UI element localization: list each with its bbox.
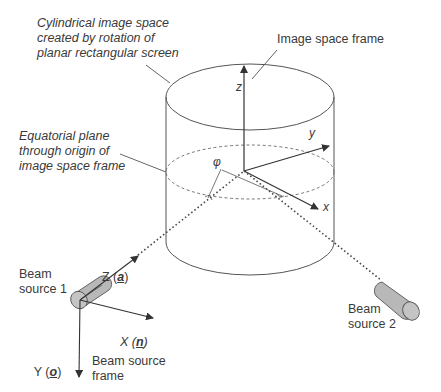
label-image-space-frame: Image space frame xyxy=(277,32,384,47)
label-beam-source-frame: Beam source frame xyxy=(92,354,166,384)
label-axis-x: x xyxy=(323,200,329,214)
leader-lines xyxy=(120,50,277,172)
label-angle-phi: φ xyxy=(213,155,221,169)
axis-Z-letter: Z xyxy=(102,270,110,284)
axis-X-vector: n xyxy=(136,335,144,349)
label-beam-axis-x: X (n) xyxy=(113,320,148,350)
label-beam-source-1: Beam source 1 xyxy=(19,267,67,297)
axis-Y-vector: o xyxy=(50,365,58,379)
label-beam-axis-y: Y (o) xyxy=(27,350,61,380)
axis-Z-vector: a xyxy=(117,270,124,284)
image-space-axes xyxy=(244,66,329,209)
axis-Y-letter: Y xyxy=(34,365,42,379)
label-axis-z: z xyxy=(236,80,242,94)
label-cylindrical-space: Cylindrical image space created by rotat… xyxy=(37,16,179,61)
label-beam-source-2: Beam source 2 xyxy=(348,302,396,332)
beam-paths xyxy=(138,171,381,280)
label-equatorial-plane: Equatorial plane through origin of image… xyxy=(19,129,125,174)
label-beam-axis-z: Z (a) xyxy=(95,255,128,285)
angle-phi-marker xyxy=(205,169,284,200)
axis-X-letter: X xyxy=(120,335,128,349)
label-axis-y: y xyxy=(309,126,315,140)
equatorial-plane xyxy=(166,145,334,199)
